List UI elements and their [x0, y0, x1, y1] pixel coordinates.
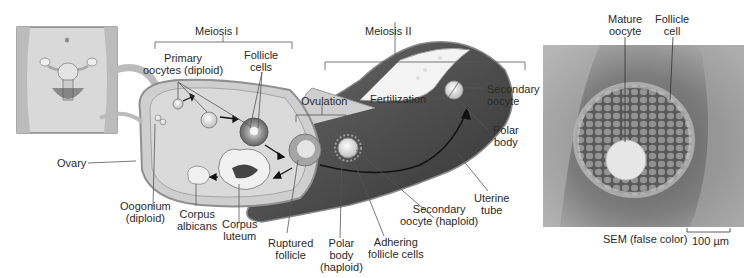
- label-primary-oocytes: Primary oocytes (diploid): [143, 52, 223, 76]
- label-corpus-albicans: Corpus albicans: [177, 208, 217, 232]
- scale-bar-label: 100 µm: [692, 235, 729, 247]
- label-follicle-cell: Follicle cell: [655, 13, 689, 37]
- label-oogonium: Oogonium (diploid): [120, 200, 171, 224]
- label-ruptured-follicle: Ruptured follicle: [268, 237, 313, 261]
- label-adhering-follicle-cells: Adhering follicle cells: [368, 236, 424, 260]
- label-polar-body-bottom: Polar body (haploid): [320, 237, 363, 273]
- label-secondary-oocyte-top: Secondary oocyte: [487, 83, 540, 107]
- label-meiosis-2: Meiosis II: [365, 25, 411, 37]
- label-mature-oocyte: Mature oocyte: [608, 13, 642, 37]
- label-follicle-cells: Follicle cells: [244, 49, 278, 73]
- label-ovary: Ovary: [57, 157, 86, 169]
- label-meiosis-1: Meiosis I: [195, 25, 238, 37]
- sem-micrograph: [543, 37, 744, 232]
- label-ovulation: Ovulation: [301, 95, 347, 107]
- label-corpus-luteum: Corpus luteum: [222, 218, 257, 242]
- sem-caption: SEM (false color): [603, 233, 687, 245]
- label-uterine-tube: Uterine tube: [474, 192, 509, 216]
- label-secondary-oocyte-bottom: Secondary oocyte (haploid): [400, 203, 478, 227]
- label-polar-body-top: Polar body: [493, 124, 519, 148]
- label-fertilization: Fertilization: [370, 93, 426, 105]
